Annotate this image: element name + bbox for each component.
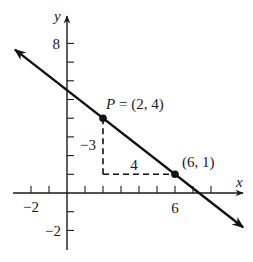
point-6-1 <box>171 171 179 179</box>
x-axis <box>13 186 243 193</box>
y-tick-label-neg2: −2 <box>45 223 61 239</box>
line-series <box>15 50 243 228</box>
y-tick-label-8: 8 <box>53 36 61 52</box>
axis-labels: x y −2 6 8 −2 <box>23 8 243 239</box>
point-p <box>99 114 107 122</box>
line-graph: x y −2 6 8 −2 −3 4 P = (2, 4) (6, 1) <box>0 0 253 262</box>
point-label-6-1: (6, 1) <box>182 154 215 171</box>
y-axis-label: y <box>52 8 61 24</box>
main-line <box>15 50 243 228</box>
point-label-p: P = (2, 4) <box>105 96 164 113</box>
point-label-p-coords: = (2, 4) <box>115 96 163 113</box>
point-label-p-name: P <box>105 96 115 112</box>
x-tick-label-6: 6 <box>171 200 179 216</box>
run-label: 4 <box>130 157 138 173</box>
y-axis <box>67 16 74 250</box>
x-axis-label: x <box>235 174 243 190</box>
x-tick-label-neg2: −2 <box>23 199 39 215</box>
rise-label: −3 <box>80 137 96 153</box>
